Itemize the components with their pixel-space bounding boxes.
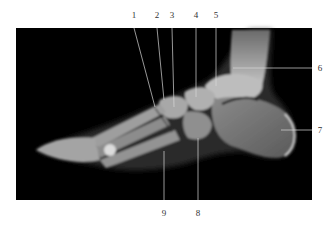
callout-label-4: 4 <box>194 10 199 20</box>
callout-label-8: 8 <box>196 208 201 218</box>
callout-label-1: 1 <box>132 10 137 20</box>
callout-label-7: 7 <box>318 125 323 135</box>
callout-label-9: 9 <box>162 208 167 218</box>
callout-label-2: 2 <box>155 10 160 20</box>
callout-label-6: 6 <box>318 63 323 73</box>
callout-label-3: 3 <box>170 10 175 20</box>
foot-xray-figure: 1 2 3 4 5 6 7 8 9 <box>0 0 336 228</box>
callout-label-5: 5 <box>214 10 219 20</box>
